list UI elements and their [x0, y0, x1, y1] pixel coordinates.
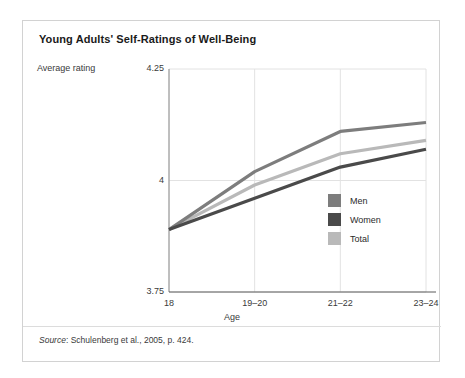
x-axis-title: Age	[23, 312, 441, 322]
legend-swatch-men	[328, 194, 341, 207]
legend-label-total: Total	[350, 234, 369, 244]
plot-area: 3.7544.25 1819–2021–2223–24 Age MenWomen…	[23, 21, 441, 363]
x-tick-label: 18	[140, 298, 198, 308]
legend-item-women: Women	[328, 210, 420, 229]
source-note: Source: Schulenberg et al., 2005, p. 424…	[39, 335, 194, 345]
x-tick-label: 21–22	[311, 298, 369, 308]
source-divider	[23, 326, 441, 327]
legend-swatch-women	[328, 213, 341, 226]
legend-label-men: Men	[350, 196, 368, 206]
legend-item-total: Total	[328, 229, 420, 248]
y-tick-label: 3.75	[130, 286, 164, 296]
chart-legend: MenWomenTotal	[328, 191, 420, 248]
y-tick-label: 4.25	[130, 63, 164, 73]
legend-label-women: Women	[350, 215, 381, 225]
x-tick-label: 19–20	[226, 298, 284, 308]
source-label: Source	[39, 335, 66, 345]
figure-card: Young Adults' Self-Ratings of Well-Being…	[22, 20, 440, 362]
legend-swatch-total	[328, 232, 341, 245]
gridlines	[169, 69, 426, 292]
legend-item-men: Men	[328, 191, 420, 210]
x-tick-label: 23–24	[397, 298, 455, 308]
y-tick-label: 4	[130, 175, 164, 185]
source-citation: : Schulenberg et al., 2005, p. 424.	[66, 335, 194, 345]
